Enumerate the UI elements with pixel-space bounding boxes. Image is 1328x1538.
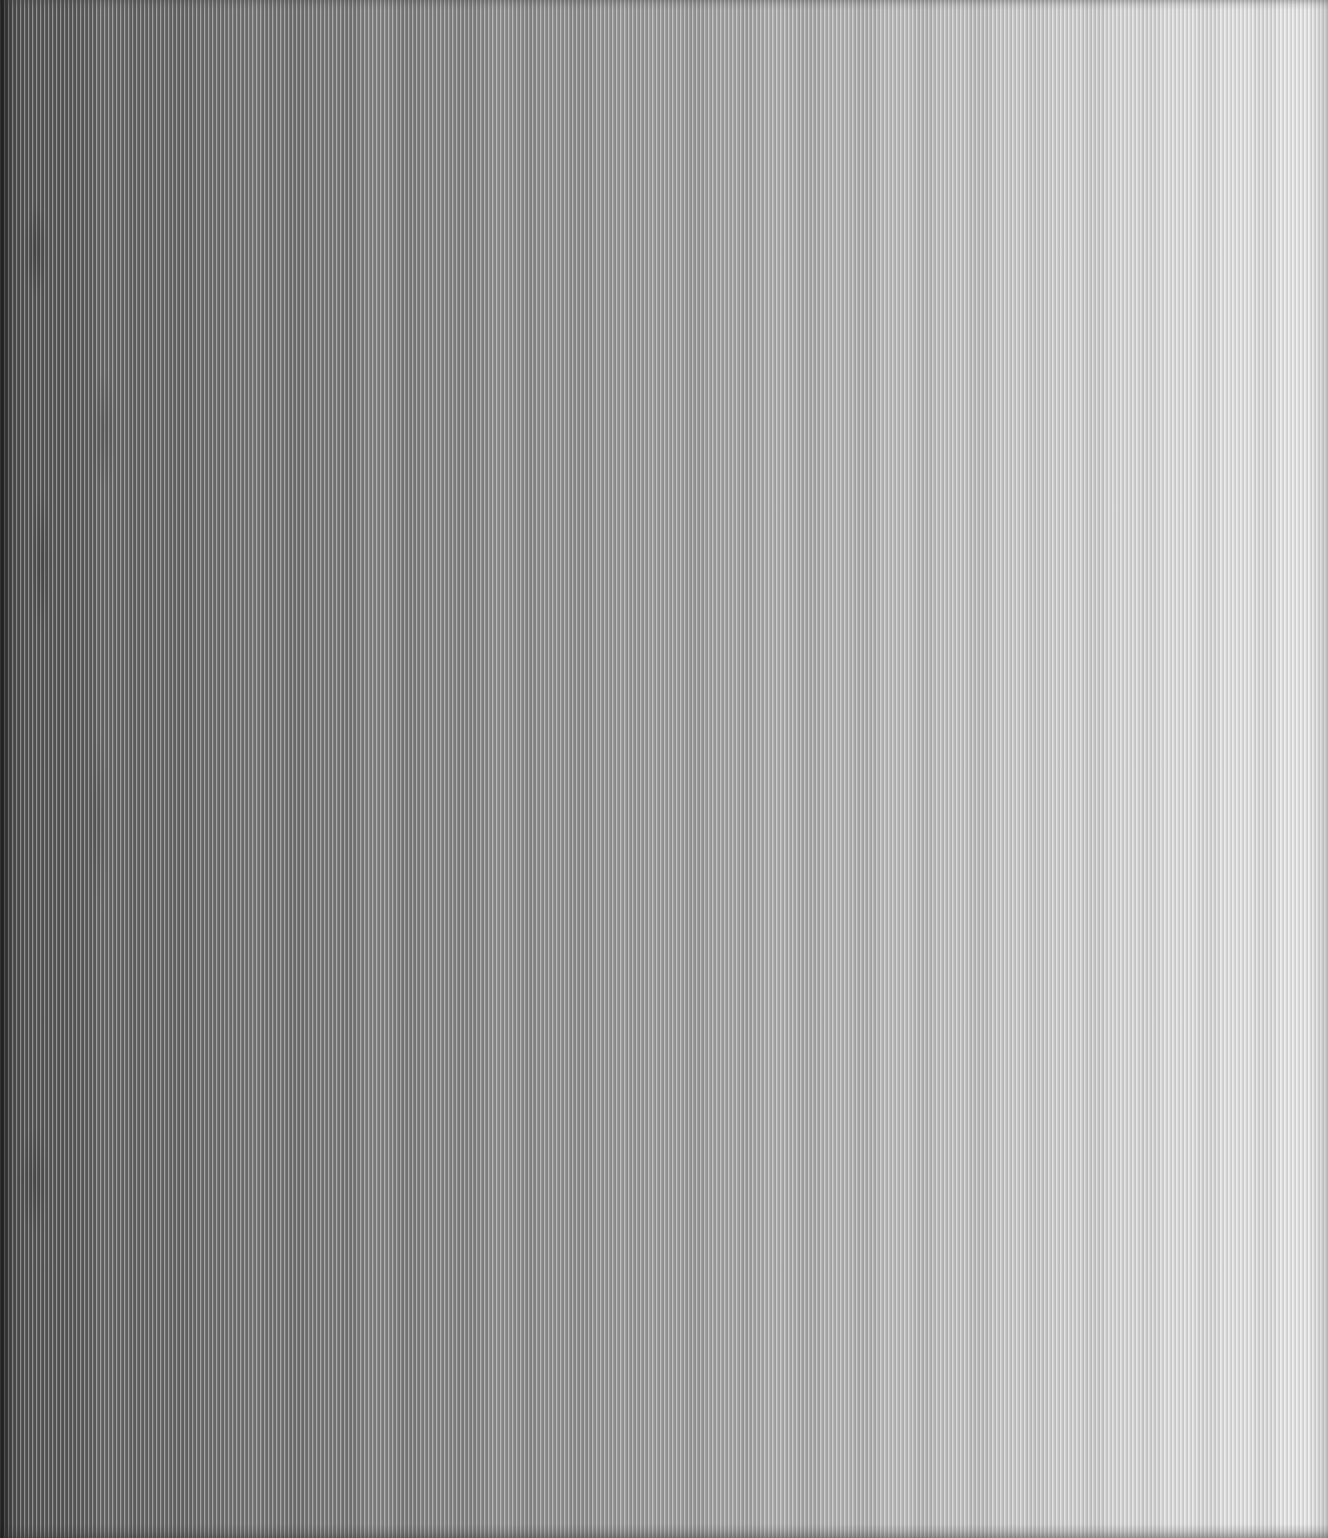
frame-edge-shading bbox=[0, 0, 1328, 1538]
striped-texture-photo bbox=[0, 0, 1328, 1538]
